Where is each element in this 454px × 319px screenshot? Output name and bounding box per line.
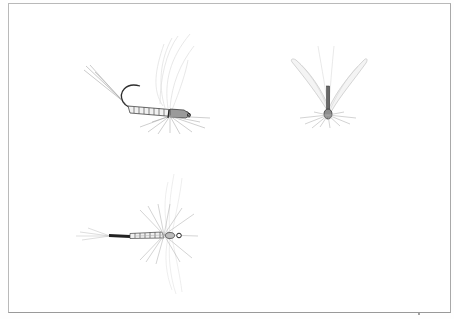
top-view-spinner-fly bbox=[76, 174, 198, 294]
paper-sheet bbox=[0, 0, 454, 319]
border-mark bbox=[418, 313, 420, 315]
front-view-winged-fly bbox=[291, 46, 367, 128]
fly-illustration bbox=[0, 0, 454, 319]
side-view-hooked-fly bbox=[84, 34, 210, 134]
